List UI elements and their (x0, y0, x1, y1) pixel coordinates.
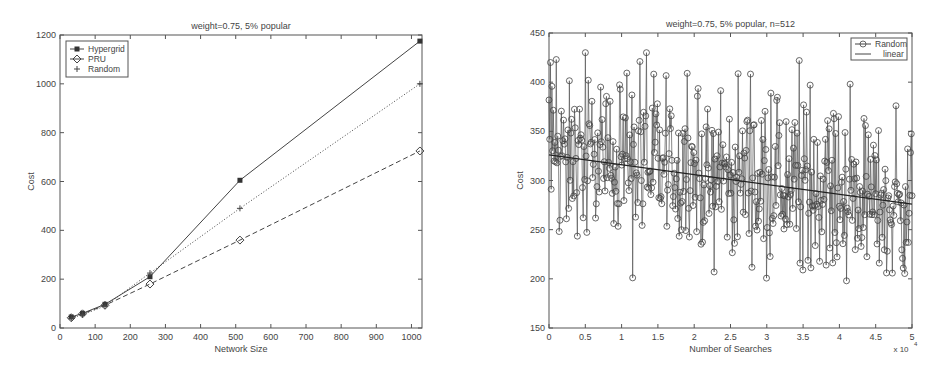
x-tick-label: 1 (619, 332, 624, 342)
svg-text:linear: linear (883, 49, 904, 59)
right-chart-title: weight=0.75, 5% popular, n=512 (665, 19, 795, 29)
y-tick-label: 400 (530, 77, 545, 87)
x-tick-label: 700 (299, 332, 314, 342)
x-tick-label: 0 (546, 332, 551, 342)
x-tick-label: 0 (57, 332, 62, 342)
x-tick-label: 3 (764, 332, 769, 342)
y-tick-label: 200 (530, 274, 545, 284)
y-tick-label: 450 (530, 28, 545, 38)
x-tick-label: 3.5 (797, 332, 810, 342)
svg-text:Random: Random (875, 39, 907, 49)
x-tick-label: 200 (123, 332, 138, 342)
network-size-chart: 0100200300400500600700800900100002004006… (0, 0, 473, 375)
y-tick-label: 1200 (36, 30, 56, 40)
x-multiplier-label: x 10 (893, 345, 909, 354)
right-chart-xlabel: Number of Searches (689, 344, 772, 354)
left-chart-title: weight=0.75, 5% popular (190, 21, 290, 31)
x-tick-label: 2 (692, 332, 697, 342)
x-tick-label: 4 (837, 332, 842, 342)
right-chart-ylabel: Cost (515, 171, 525, 190)
x-tick-label: 4.5 (869, 332, 882, 342)
x-tick-label: 1000 (401, 332, 421, 342)
x-tick-label: 400 (193, 332, 208, 342)
y-tick-label: 400 (41, 225, 56, 235)
svg-text:Random: Random (88, 64, 120, 74)
y-tick-label: 150 (530, 323, 545, 333)
y-tick-label: 800 (41, 128, 56, 138)
left-chart-ylabel: Cost (26, 172, 36, 191)
x-tick-label: 0.5 (579, 332, 592, 342)
x-multiplier-exponent: 4 (914, 341, 918, 347)
right-chart-legend: Randomlinear (851, 38, 907, 60)
searches-chart-panel: 00.511.522.533.544.551502002503003504004… (473, 0, 946, 375)
svg-text:Hypergrid: Hypergrid (88, 44, 125, 54)
svg-text:PRU: PRU (88, 54, 106, 64)
y-tick-label: 1000 (36, 79, 56, 89)
y-tick-label: 250 (530, 225, 545, 235)
y-tick-label: 350 (530, 126, 545, 136)
y-tick-label: 300 (530, 176, 545, 186)
network-size-chart-panel: 0100200300400500600700800900100002004006… (0, 0, 473, 375)
left-chart-legend: HypergridPRURandom (66, 41, 128, 77)
x-tick-label: 300 (158, 332, 173, 342)
x-tick-label: 100 (88, 332, 103, 342)
x-tick-label: 1.5 (652, 332, 665, 342)
x-tick-label: 2.5 (724, 332, 737, 342)
y-tick-label: 200 (41, 274, 56, 284)
y-tick-label: 600 (41, 177, 56, 187)
left-chart-xlabel: Network Size (214, 344, 267, 354)
y-tick-label: 0 (51, 323, 56, 333)
x-tick-label: 900 (369, 332, 384, 342)
searches-chart: 00.511.522.533.544.551502002503003504004… (473, 0, 946, 375)
x-tick-label: 600 (263, 332, 278, 342)
x-tick-label: 800 (334, 332, 349, 342)
x-tick-label: 500 (228, 332, 243, 342)
